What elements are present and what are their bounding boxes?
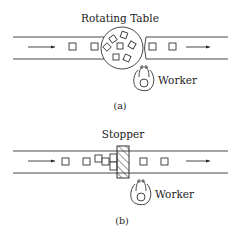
worker-topview-icon xyxy=(134,66,154,91)
worker-topview-icon xyxy=(131,180,151,205)
square-part-icon xyxy=(83,158,90,165)
conveyor-right-a xyxy=(145,37,229,59)
worker-label-b: Worker xyxy=(155,188,195,200)
conveyor-left-a xyxy=(13,37,104,59)
square-part-icon xyxy=(91,43,98,50)
square-part-icon xyxy=(140,158,147,165)
square-part-icon xyxy=(110,154,117,162)
conveyor-diagram: Rotating Table xyxy=(0,0,241,235)
rotating-table-label: Rotating Table xyxy=(81,12,159,24)
square-part-icon xyxy=(102,158,109,165)
hatched-stopper-icon xyxy=(117,146,129,178)
caption-b: (b) xyxy=(115,215,129,226)
panel-b: Stopper Worker (b) xyxy=(13,128,228,226)
square-part-icon xyxy=(62,158,69,165)
panel-a: Rotating Table xyxy=(13,12,228,111)
square-part-icon xyxy=(149,43,156,50)
circle-table-icon xyxy=(101,27,143,69)
square-part-icon xyxy=(69,43,76,50)
square-part-icon xyxy=(110,162,117,170)
square-part-icon xyxy=(95,155,102,162)
worker-label-a: Worker xyxy=(158,74,198,86)
stopper-label: Stopper xyxy=(102,128,145,140)
square-part-icon xyxy=(161,158,168,165)
caption-a: (a) xyxy=(113,100,126,111)
square-part-icon xyxy=(169,43,176,50)
